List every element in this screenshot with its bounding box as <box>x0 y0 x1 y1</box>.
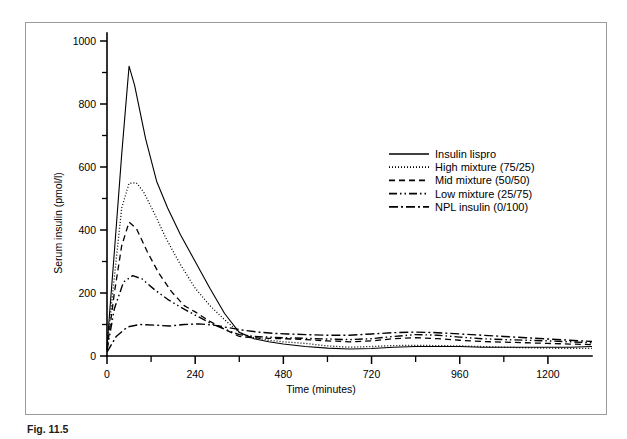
series-line-2 <box>107 222 592 350</box>
x-axis: 02404807209601200 <box>104 356 592 380</box>
figure-panel: 02004006008001000 02404807209601200 Insu… <box>25 22 607 415</box>
figure-caption: Fig. 11.5 <box>27 423 68 435</box>
y-tick-label: 0 <box>90 350 96 362</box>
y-tick-label: 600 <box>78 161 96 173</box>
y-tick-label: 200 <box>78 287 96 299</box>
x-tick-label: 960 <box>451 368 469 380</box>
legend-label-4: NPL insulin (0/100) <box>435 201 528 213</box>
legend-label-1: High mixture (75/25) <box>435 161 535 173</box>
legend-label-3: Low mixture (25/75) <box>435 188 532 200</box>
chart-legend: Insulin lisproHigh mixture (75/25)Mid mi… <box>389 148 535 213</box>
x-tick-label: 240 <box>186 368 204 380</box>
series-line-3 <box>107 276 592 351</box>
y-axis-title: Serum insulin (pmol/l) <box>52 172 64 274</box>
x-tick-label: 480 <box>275 368 293 380</box>
serum-insulin-line-chart: 02004006008001000 02404807209601200 Insu… <box>26 23 608 416</box>
legend-label-2: Mid mixture (50/50) <box>435 174 530 186</box>
y-tick-label: 800 <box>78 98 96 110</box>
y-tick-label: 1000 <box>73 35 97 47</box>
legend-label-0: Insulin lispro <box>435 148 496 160</box>
x-tick-label: 0 <box>104 368 110 380</box>
x-axis-title: Time (minutes) <box>286 383 356 395</box>
x-tick-label: 1200 <box>536 368 560 380</box>
x-tick-label: 720 <box>363 368 381 380</box>
y-tick-label: 400 <box>78 224 96 236</box>
y-axis: 02004006008001000 <box>73 33 107 362</box>
